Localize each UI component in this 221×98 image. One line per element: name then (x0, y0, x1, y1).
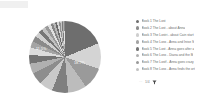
legend-item-label: Book 4 The Loss - Anna and Inise S (142, 39, 195, 46)
legend-item[interactable]: Book 4 The Loss - Anna and Inise S (136, 39, 220, 46)
legend-item-label: Book 7 The Lostf - Anna goes crazy (142, 59, 194, 66)
legend-item[interactable]: Book 7 The Lostf - Anna goes crazy (136, 59, 220, 66)
legend-item[interactable]: Book 8 The Loss - Anna finds the ort (136, 66, 220, 73)
legend-item[interactable]: Book 2 The Lost - about Anna (136, 25, 220, 32)
legend-swatch-icon (136, 33, 139, 36)
legend-item[interactable]: Book 3 The Lostri - about Cain start (136, 32, 220, 39)
legend-swatch-icon (136, 68, 139, 71)
legend-swatch-icon (136, 54, 139, 57)
legend-swatch-icon (136, 26, 139, 29)
legend-swatch-icon (136, 61, 139, 64)
legend-item-label: Book 5 The Lost - Anna goes after a (142, 46, 195, 53)
pie-slice-label-left: 11.5% (36, 47, 46, 51)
footer-dots: ··· (139, 81, 142, 84)
chart-footer: ··· 1/4 (139, 80, 157, 85)
pie-chart-widget: 11.5% 18.7% Book 1 The LostBook 2 The Lo… (0, 0, 221, 98)
legend-swatch-icon (136, 40, 139, 43)
legend-item[interactable]: Book 1 The Lost (136, 18, 220, 25)
legend-item[interactable]: Book 5 The Lost - Anna goes after a (136, 46, 220, 53)
legend-item-label: Book 1 The Lost (142, 18, 166, 25)
chart-legend: Book 1 The LostBook 2 The Lost - about A… (136, 18, 220, 73)
legend-item-label: Book 8 The Loss - Anna finds the ort (142, 66, 195, 73)
pie-chart-area: 11.5% 18.7% (29, 21, 101, 93)
pie-chart[interactable] (29, 21, 101, 93)
page-indicator: 1/4 (145, 81, 150, 84)
legend-swatch-icon (136, 47, 139, 50)
legend-item-label: Book 3 The Lostri - about Cain start (142, 32, 194, 39)
legend-swatch-icon (136, 20, 139, 23)
pie-slice-label-right: 18.7% (74, 61, 85, 65)
filter-funnel-icon[interactable] (152, 80, 157, 85)
legend-item-label: Book 2 The Lost - about Anna (142, 25, 186, 32)
legend-item-label: Book 6 The Loss - Diana and the M (142, 52, 194, 59)
legend-item[interactable]: Book 6 The Loss - Diana and the M (136, 52, 220, 59)
